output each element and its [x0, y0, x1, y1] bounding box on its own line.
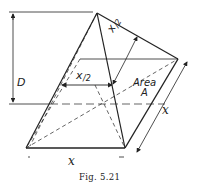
label-half-width-front: x /2: [75, 69, 91, 83]
pyramid-diagram: D x /2 x /2 Area A x x Fig. 5.21: [0, 0, 200, 185]
figure-caption: Fig. 5.21: [79, 172, 120, 182]
label-depth: D: [17, 76, 25, 89]
svg-text:/2: /2: [82, 74, 91, 83]
label-base-depth: x: [162, 103, 169, 117]
svg-text:x: x: [75, 69, 83, 82]
label-base-width: x: [68, 154, 75, 168]
label-area-symbol: A: [140, 87, 148, 98]
